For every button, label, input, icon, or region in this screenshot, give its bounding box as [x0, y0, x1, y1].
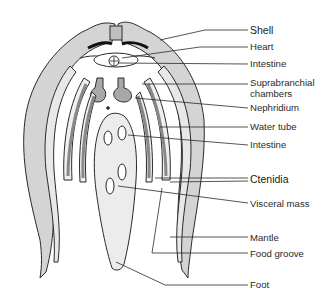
nephridium-right [114, 78, 132, 102]
label-mantle: Mantle [250, 233, 279, 243]
label-nephridium: Nephridium [250, 103, 299, 113]
label-visceral-mass: Visceral mass [250, 199, 310, 209]
hinge-ligament [110, 26, 122, 40]
leader-shell [160, 30, 248, 40]
leader-intestine-upper [118, 63, 248, 64]
label-shell: Shell [250, 25, 273, 35]
label-suprabranchial: Suprabranchial [250, 78, 315, 88]
visceral-mass [94, 113, 136, 270]
label-foot: Foot [250, 280, 269, 290]
label-heart: Heart [250, 42, 273, 52]
label-intestine-lower: Intestine [250, 140, 286, 150]
leader-food-groove [152, 188, 248, 253]
label-food-groove: Food groove [250, 249, 304, 259]
label-intestine-upper: Intestine [250, 59, 286, 69]
label-water-tube: Water tube [250, 122, 297, 132]
label-suprabranchial-chambers: chambers [250, 89, 292, 99]
label-ctenidia: Ctenidia [250, 174, 289, 184]
